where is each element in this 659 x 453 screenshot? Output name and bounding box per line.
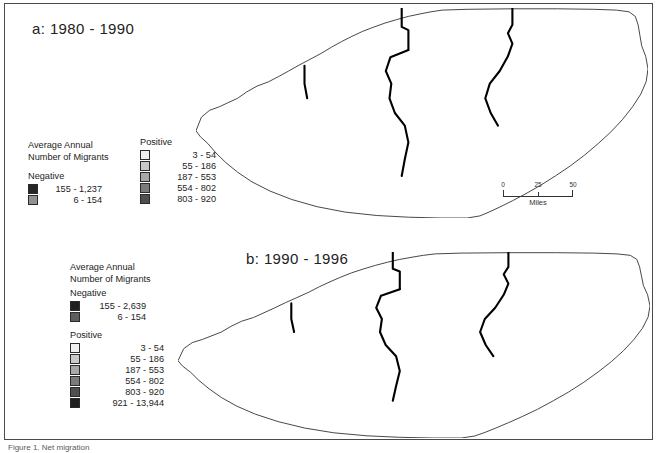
legend-swatch [140, 194, 150, 204]
legend-label: 155 - 2,639 [84, 301, 146, 311]
legend-row: 55 - 186 [140, 161, 216, 172]
map-a-svg [196, 8, 648, 218]
legend-label: 55 - 186 [84, 354, 164, 364]
legend-label: 803 - 920 [154, 194, 216, 204]
legend-label: 3 - 54 [154, 150, 216, 160]
scale-bar-units: Miles [503, 198, 573, 207]
legend-row: 155 - 2,639 [70, 301, 146, 312]
legend-label: 921 - 13,944 [84, 398, 164, 408]
legend-label: 803 - 920 [84, 387, 164, 397]
legend-swatch [70, 376, 80, 386]
map-b-svg [178, 252, 650, 438]
scale-bar-min: 0 [501, 181, 505, 188]
legend-a-positive: Positive 3 - 5455 - 186187 - 553554 - 80… [140, 137, 216, 205]
legend-label: 55 - 186 [154, 161, 216, 171]
legend-label: 187 - 553 [84, 365, 164, 375]
legend-a-negative-title: Negative [28, 171, 102, 183]
legend-row: 554 - 802 [70, 376, 164, 387]
map-panel-a [196, 8, 648, 218]
legend-label: 6 - 154 [42, 195, 102, 205]
legend-label: 554 - 802 [154, 183, 216, 193]
panel-a-title: a: 1980 - 1990 [32, 20, 134, 37]
legend-row: 6 - 154 [70, 312, 146, 323]
legend-row: 187 - 553 [140, 172, 216, 183]
legend-swatch [140, 161, 150, 171]
legend-b-positive-rows: 3 - 5455 - 186187 - 553554 - 802803 - 92… [70, 343, 164, 409]
legend-b-positive-title: Positive [70, 330, 164, 342]
legend-row: 155 - 1,237 [28, 184, 102, 195]
scale-bar-numbers: 0 25 50 [503, 181, 573, 190]
legend-label: 187 - 553 [154, 172, 216, 182]
legend-a-negative: Negative 155 - 1,2376 - 154 [28, 171, 102, 206]
scale-bar-graphic [503, 190, 573, 197]
legend-a-heading-line2: Number of Migrants [28, 152, 109, 164]
legend-swatch [28, 195, 38, 205]
scale-bar-tick [538, 192, 539, 196]
legend-b-heading-line2: Number of Migrants [70, 274, 151, 286]
legend-label: 3 - 54 [84, 343, 164, 353]
legend-swatch [70, 312, 80, 322]
legend-row: 3 - 54 [140, 150, 216, 161]
legend-swatch [140, 150, 150, 160]
legend-row: 187 - 553 [70, 365, 164, 376]
legend-label: 6 - 154 [84, 312, 146, 322]
scale-bar-mid: 25 [534, 181, 541, 188]
legend-swatch [70, 343, 80, 353]
legend-a-heading: Average Annual Number of Migrants [28, 140, 109, 163]
legend-b-positive: Positive 3 - 5455 - 186187 - 553554 - 80… [70, 330, 164, 409]
legend-swatch [70, 365, 80, 375]
state-outline [196, 9, 648, 218]
legend-label: 554 - 802 [84, 376, 164, 386]
legend-row: 554 - 802 [140, 183, 216, 194]
scale-bar-max: 50 [569, 181, 576, 188]
legend-swatch [70, 398, 80, 408]
legend-row: 803 - 920 [70, 387, 164, 398]
legend-swatch [28, 184, 38, 194]
legend-swatch [70, 354, 80, 364]
legend-a-positive-rows: 3 - 5455 - 186187 - 553554 - 802803 - 92… [140, 150, 216, 205]
legend-label: 155 - 1,237 [42, 184, 102, 194]
legend-row: 803 - 920 [140, 194, 216, 205]
figure-caption: Figure 1. Net migration [8, 443, 89, 452]
legend-a-negative-rows: 155 - 1,2376 - 154 [28, 184, 102, 206]
state-outline [178, 253, 650, 438]
legend-row: 55 - 186 [70, 354, 164, 365]
legend-b-negative: Negative 155 - 2,6396 - 154 [70, 288, 146, 323]
figure-net-migration-maps: a: 1980 - 1990 Average Annual Number of … [0, 0, 659, 453]
legend-row: 6 - 154 [28, 195, 102, 206]
legend-row: 3 - 54 [70, 343, 164, 354]
legend-swatch [140, 183, 150, 193]
legend-swatch [70, 301, 80, 311]
legend-b-heading-line1: Average Annual [70, 262, 151, 274]
legend-swatch [70, 387, 80, 397]
legend-row: 921 - 13,944 [70, 398, 164, 409]
legend-a-positive-title: Positive [140, 137, 216, 149]
scale-bar: 0 25 50 Miles [503, 181, 573, 207]
map-panel-b [178, 252, 650, 438]
legend-swatch [140, 172, 150, 182]
legend-b-heading: Average Annual Number of Migrants [70, 262, 151, 285]
legend-b-negative-rows: 155 - 2,6396 - 154 [70, 301, 146, 323]
legend-a-heading-line1: Average Annual [28, 140, 109, 152]
legend-b-negative-title: Negative [70, 288, 146, 300]
